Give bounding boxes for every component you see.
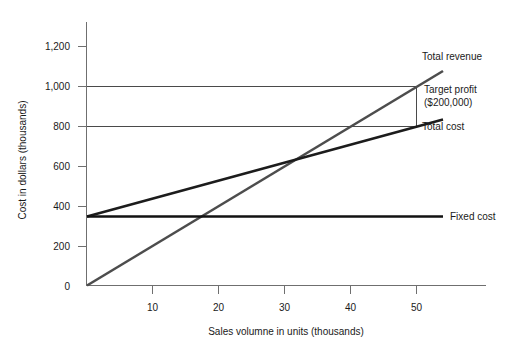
chart-canvas: 1,200 1,000 800 600 400 200 0 10 20 30 4… [0, 0, 511, 352]
y-axis-title: Cost in dollars (thousands) [17, 101, 28, 220]
y-tick-label-600: 600 [53, 161, 70, 172]
series-label-fixed-cost: Fixed cost [450, 211, 496, 222]
series-label-total-revenue: Total revenue [422, 51, 482, 62]
series-line-total-cost [87, 120, 443, 217]
series-label-total-cost: Total cost [422, 121, 464, 132]
x-tick-label-10: 10 [147, 302, 159, 313]
annotation-target-profit-line2: ($200,000) [424, 97, 472, 108]
x-tick-label-40: 40 [345, 302, 357, 313]
axis-titles-group: Sales volumne in units (thousands) Cost … [17, 101, 364, 337]
y-tick-label-1200: 1,200 [45, 41, 70, 52]
series-line-total-revenue [87, 71, 443, 286]
y-tick-label-1000: 1,000 [45, 81, 70, 92]
x-tick-label-50: 50 [411, 302, 423, 313]
cvp-breakeven-chart: 1,200 1,000 800 600 400 200 0 10 20 30 4… [0, 0, 511, 352]
y-tick-label-0: 0 [64, 281, 70, 292]
y-tick-marks [78, 47, 87, 247]
x-axis-title: Sales volumne in units (thousands) [208, 326, 364, 337]
x-tick-label-20: 20 [213, 302, 225, 313]
y-tick-label-800: 800 [53, 121, 70, 132]
y-tick-label-400: 400 [53, 201, 70, 212]
x-tick-labels: 10 20 30 40 50 [147, 302, 423, 313]
series-group [87, 71, 443, 286]
reference-lines-group [87, 87, 417, 127]
annotation-target-profit-line1: Target profit [424, 84, 477, 95]
y-tick-labels: 1,200 1,000 800 600 400 200 0 [45, 41, 70, 292]
y-tick-label-200: 200 [53, 241, 70, 252]
x-tick-marks [153, 286, 417, 295]
x-tick-label-30: 30 [279, 302, 291, 313]
